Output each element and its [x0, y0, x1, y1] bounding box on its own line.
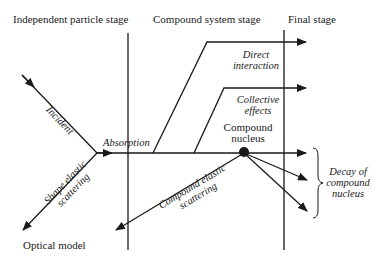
label-compound-nucleus: Compound nucleus [218, 122, 278, 144]
stage-title-independent: Independent particle stage [13, 14, 128, 25]
label-direct-line2: interaction [230, 60, 282, 71]
decay-arrow-2 [244, 153, 307, 211]
incident-arrow [22, 75, 34, 87]
label-direct-line1: Direct [230, 49, 282, 60]
label-decay-line3: nucleus [322, 188, 374, 199]
label-decay-line1: Decay of [322, 166, 374, 177]
label-absorption: Absorption [103, 137, 150, 148]
label-collective-line2: effects [232, 105, 284, 116]
nuclear-reaction-diagram [0, 0, 375, 262]
label-direct-interaction: Direct interaction [230, 49, 282, 71]
stage-title-compound: Compound system stage [153, 14, 261, 25]
label-decay-line2: compound [322, 177, 374, 188]
label-decay: Decay of compound nucleus [322, 166, 374, 199]
label-optical-model: Optical model [23, 240, 86, 251]
compound-nucleus-dot [239, 147, 249, 157]
label-collective-effects: Collective effects [232, 94, 284, 116]
stage-title-final: Final stage [288, 14, 336, 25]
label-collective-line1: Collective [232, 94, 284, 105]
decay-arrow-1 [244, 153, 307, 180]
label-compound-line2: nucleus [218, 133, 278, 144]
